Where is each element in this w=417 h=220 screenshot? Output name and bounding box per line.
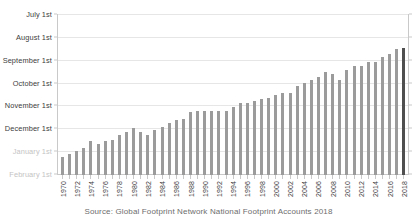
bar-slot (95, 14, 102, 175)
bar (161, 127, 164, 175)
y-axis-label: November 1st (5, 101, 57, 110)
x-tick-mark (268, 175, 269, 179)
x-tick-mark (361, 175, 362, 179)
x-tick-mark (133, 175, 134, 179)
x-tick-slot (322, 175, 329, 181)
bar (210, 111, 213, 175)
bar (338, 80, 341, 175)
x-axis-label: 1980 (130, 181, 137, 197)
x-tick-mark (354, 175, 355, 179)
bar (118, 135, 121, 175)
x-tick-mark (346, 175, 347, 179)
x-tick-slot: 2006 (315, 175, 322, 181)
bar-slot (166, 14, 173, 175)
x-tick-slot (279, 175, 286, 181)
bar (395, 49, 398, 175)
y-tick-mark-right (409, 36, 412, 37)
bar-slot (358, 14, 365, 175)
x-tick-slot: 1984 (159, 175, 166, 181)
x-tick-slot: 1992 (215, 175, 222, 181)
x-tick-slot (151, 175, 158, 181)
bar-slot (215, 14, 222, 175)
x-tick-mark (339, 175, 340, 179)
x-tick-slot (180, 175, 187, 181)
x-axis-ticks: 1970197219741976197819801982198419861988… (57, 175, 409, 181)
bar (225, 111, 228, 175)
x-axis-label: 1982 (144, 181, 151, 197)
bar (217, 111, 220, 175)
x-tick-mark (197, 175, 198, 179)
bar-slot (173, 14, 180, 175)
x-tick-mark (90, 175, 91, 179)
bar-slot (393, 14, 400, 175)
bar (104, 141, 107, 175)
bar-slot (230, 14, 237, 175)
bar (260, 99, 263, 175)
bar (175, 120, 178, 175)
bar-slot (201, 14, 208, 175)
x-axis-label: 1972 (73, 181, 80, 197)
bar-slot (180, 14, 187, 175)
bar-slot (87, 14, 94, 175)
x-tick-mark (389, 175, 390, 179)
bar (97, 144, 100, 175)
x-tick-slot (66, 175, 73, 181)
x-tick-mark (76, 175, 77, 179)
bar (146, 135, 149, 175)
bar (139, 132, 142, 175)
x-tick-mark (297, 175, 298, 179)
y-axis-label: September 1st (3, 55, 57, 64)
x-tick-mark (126, 175, 127, 179)
x-tick-mark (304, 175, 305, 179)
bar-slot (386, 14, 393, 175)
x-tick-slot (194, 175, 201, 181)
bar-slot (66, 14, 73, 175)
bar (82, 148, 85, 175)
y-axis-label: December 1st (5, 124, 57, 133)
x-tick-mark (403, 175, 404, 179)
bar-slot (372, 14, 379, 175)
x-tick-mark (140, 175, 141, 179)
x-axis-label: 1990 (201, 181, 208, 197)
x-tick-mark (396, 175, 397, 179)
bar-slot (116, 14, 123, 175)
x-axis-label: 1994 (230, 181, 237, 197)
bar-slot (379, 14, 386, 175)
y-tick-mark-right (409, 174, 412, 175)
x-tick-mark (325, 175, 326, 179)
bar (367, 62, 370, 175)
x-tick-mark (154, 175, 155, 179)
x-tick-slot (137, 175, 144, 181)
bar-slot (329, 14, 336, 175)
x-tick-slot: 1980 (130, 175, 137, 181)
x-tick-slot: 1998 (258, 175, 265, 181)
x-tick-slot: 1996 (244, 175, 251, 181)
bar (111, 140, 114, 175)
bar-slot (208, 14, 215, 175)
bar-slot (301, 14, 308, 175)
x-tick-slot: 1972 (73, 175, 80, 181)
x-axis-label: 2006 (315, 181, 322, 197)
y-axis-label: July 1st (26, 10, 57, 19)
bar-slot (365, 14, 372, 175)
x-tick-slot: 1970 (59, 175, 66, 181)
plot-area: July 1stAugust 1stSeptember 1stOctober 1… (57, 14, 409, 175)
x-tick-mark (119, 175, 120, 179)
bar-slot (80, 14, 87, 175)
x-axis-label: 2000 (272, 181, 279, 197)
x-tick-mark (275, 175, 276, 179)
bar-slot (279, 14, 286, 175)
bar (61, 157, 64, 175)
x-axis-label: 2012 (358, 181, 365, 197)
bar (196, 111, 199, 175)
bar (281, 93, 284, 175)
x-tick-slot: 2014 (372, 175, 379, 181)
x-tick-mark (169, 175, 170, 179)
bar-slot (265, 14, 272, 175)
bar (353, 66, 356, 175)
bar-slot (237, 14, 244, 175)
x-axis-label: 1976 (102, 181, 109, 197)
x-tick-slot: 2002 (287, 175, 294, 181)
x-tick-slot: 2018 (400, 175, 407, 181)
bar-slot (287, 14, 294, 175)
